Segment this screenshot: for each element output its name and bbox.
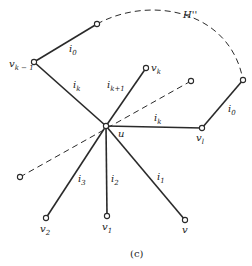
edge-i0-right xyxy=(202,80,243,128)
edge-i0-left xyxy=(34,24,97,62)
label-i1: i1 xyxy=(157,171,165,185)
node-dashed-lower xyxy=(17,174,22,179)
label-v-1: v1 xyxy=(102,221,112,235)
node-v xyxy=(182,217,187,222)
figure-caption: (c) xyxy=(130,248,144,259)
node-v-1 xyxy=(104,213,109,218)
label-ik-left: ik xyxy=(73,79,80,93)
label-i3: i3 xyxy=(78,173,86,187)
node-v-2 xyxy=(43,215,48,220)
label-ik1: ik+1 xyxy=(107,79,125,93)
label-v-2: v2 xyxy=(40,223,51,237)
label-v-k: vk xyxy=(151,62,161,76)
label-h-double-prime: H'' xyxy=(182,9,197,20)
node-u xyxy=(103,123,108,128)
node-dashed-upper xyxy=(188,78,193,83)
node-v-k xyxy=(143,65,148,70)
arc-h-double-prime xyxy=(97,10,243,80)
label-u: u xyxy=(118,128,124,139)
edge-ik-left xyxy=(34,62,106,126)
label-ik-right: ik xyxy=(154,112,161,126)
node-v-l xyxy=(199,125,204,130)
node-top xyxy=(94,21,99,26)
graph-diagram: vk − 1 vk u vl v2 v1 v i0 ik ik+1 ik i0 … xyxy=(0,0,252,266)
label-i2: i2 xyxy=(111,173,119,187)
label-v-k-minus-1: vk − 1 xyxy=(9,58,34,72)
label-v-l: vl xyxy=(196,132,204,146)
edge-i2 xyxy=(106,126,107,216)
edge-i1 xyxy=(106,126,185,220)
label-i0-right: i0 xyxy=(228,103,236,117)
node-right-top xyxy=(240,77,245,82)
label-i0-left: i0 xyxy=(69,43,77,57)
label-v: v xyxy=(182,224,188,235)
edge-i3 xyxy=(46,126,106,218)
